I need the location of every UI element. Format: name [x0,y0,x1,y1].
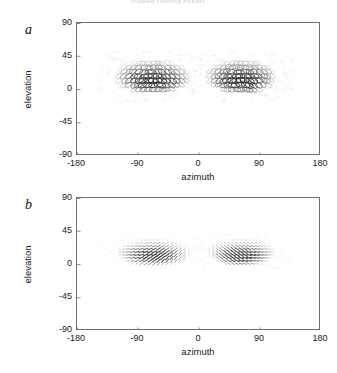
panel-b-xtick-label: 0 [178,334,218,343]
panel-b-letter: b [25,197,32,213]
panel-a-ytick-label: 0 [42,84,72,93]
panel-b-data-canvas [77,198,320,330]
figure-root: clipped running header a 90 45 0 -45 -90… [0,0,337,373]
panel-b-ytick-label: 0 [42,259,72,268]
panel-b-ytick-label: 90 [42,193,72,202]
panel-a: a 90 45 0 -45 -90 -180 -90 0 90 180 azim… [0,0,337,190]
panel-b-xtick-label: -90 [117,334,157,343]
panel-a-ytick-label: 45 [42,51,72,60]
panel-a-data-canvas [77,23,320,155]
panel-b-yaxis-title: elevation [22,225,33,305]
panel-a-xtick-label: 180 [300,159,337,168]
panel-a-ytick-label: -45 [42,117,72,126]
glyph-cluster [98,51,210,103]
panel-b-ytick-label: -45 [42,292,72,301]
panel-a-ytick-label: 90 [42,18,72,27]
panel-b-xtick-label: 180 [300,334,337,343]
panel-b-plot-area [76,197,320,330]
panel-a-xtick-label: 0 [178,159,218,168]
panel-a-xtick-label: -90 [117,159,157,168]
panel-b: b 90 45 0 -45 -90 -180 -90 0 90 180 azim… [0,175,337,373]
panel-b-xtick-label: -180 [56,334,96,343]
glyph-cluster [188,50,295,102]
panel-a-letter: a [25,22,32,38]
panel-a-yaxis-title: elevation [22,50,33,130]
panel-b-xtick-label: 90 [239,334,279,343]
vector-field-cluster [193,231,291,272]
panel-b-ytick-label: 45 [42,226,72,235]
panel-a-xtick-label: 90 [239,159,279,168]
panel-a-plot-area [76,22,320,155]
vector-field-cluster [100,232,209,272]
panel-a-xtick-label: -180 [56,159,96,168]
panel-b-xaxis-title: azimuth [76,346,320,357]
